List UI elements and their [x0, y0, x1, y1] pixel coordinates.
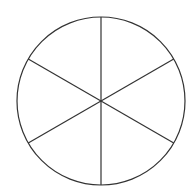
divided-circle-diagram: [0, 0, 190, 190]
